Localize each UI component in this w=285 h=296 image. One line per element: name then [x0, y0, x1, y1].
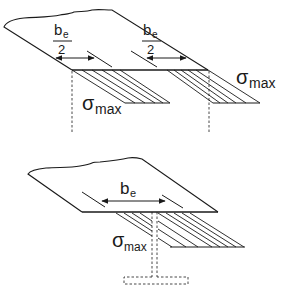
bottom-left-dim-tick — [82, 192, 105, 207]
top-slab-outline — [4, 10, 208, 70]
top-left-stress-label: σ max — [82, 92, 121, 117]
top-right-width-den: 2 — [147, 42, 154, 57]
top-right-stress-label: σ max — [236, 66, 275, 91]
top-left-dim-tick — [87, 51, 112, 67]
bottom-width-label: b e — [120, 179, 136, 199]
top-left-width-den: 2 — [58, 42, 65, 57]
top-left-sigma-sub: max — [95, 101, 121, 117]
top-left-width-b: b — [54, 21, 62, 38]
top-right-sigma-sub: max — [249, 75, 275, 91]
effective-width-diagram: b e 2 b e 2 σ max σ max — [0, 0, 285, 296]
bottom-sigma-sub: max — [124, 240, 147, 254]
top-left-width-label: b e 2 — [53, 21, 72, 57]
top-right-width-sub: e — [152, 29, 158, 40]
top-right-width-b: b — [143, 21, 151, 38]
top-left-width-sub: e — [63, 29, 69, 40]
top-right-sigma: σ — [236, 66, 249, 88]
top-left-sigma: σ — [82, 92, 95, 114]
bottom-stress-label: σ max — [112, 229, 147, 254]
top-figure — [4, 10, 260, 134]
bottom-right-dim-tick — [162, 195, 183, 208]
bottom-figure — [28, 158, 245, 284]
bottom-width-sub: e — [130, 187, 136, 199]
bottom-width-b: b — [120, 179, 129, 198]
